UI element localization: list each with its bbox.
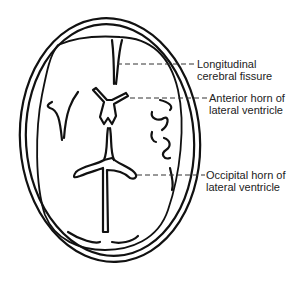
label-occipital-horn: Occipital horn of lateral ventricle xyxy=(206,169,285,193)
label-line1: Longitudinal xyxy=(197,58,272,70)
right-gyri xyxy=(151,100,172,190)
label-line2: lateral ventricle xyxy=(209,104,285,116)
label-line2: cerebral fissure xyxy=(197,70,272,82)
brain-section-diagram xyxy=(0,0,306,287)
left-sulcus xyxy=(48,92,78,140)
third-ventricle xyxy=(104,128,114,160)
occipital-pole xyxy=(68,232,138,243)
label-line1: Anterior horn of xyxy=(209,92,285,104)
label-anterior-horn: Anterior horn of lateral ventricle xyxy=(209,92,285,116)
brain-outline xyxy=(37,36,182,250)
anterior-horn xyxy=(93,88,128,124)
label-line1: Occipital horn of xyxy=(206,169,285,181)
occipital-horn xyxy=(74,158,136,232)
label-longitudinal-fissure: Longitudinal cerebral fissure xyxy=(197,58,272,82)
longitudinal-fissure xyxy=(112,40,122,84)
label-line2: lateral ventricle xyxy=(206,181,285,193)
